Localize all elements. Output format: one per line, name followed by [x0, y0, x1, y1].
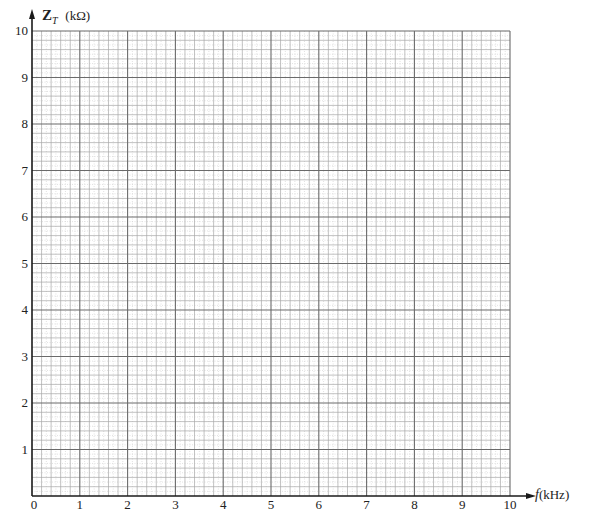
graph-paper-chart	[0, 0, 589, 515]
y-tick-label: 2	[4, 395, 28, 411]
x-tick-label: 5	[259, 497, 283, 513]
x-tick-label: 6	[307, 497, 331, 513]
y-tick-label: 3	[4, 349, 28, 365]
y-axis-arrow-icon	[29, 9, 35, 19]
x-tick-label: 2	[116, 497, 140, 513]
x-tick-label: 7	[355, 497, 379, 513]
y-tick-label: 7	[4, 163, 28, 179]
x-tick-label: 0	[22, 497, 46, 513]
x-tick-label: 9	[450, 497, 474, 513]
x-tick-label: 3	[163, 497, 187, 513]
y-tick-label: 5	[4, 256, 28, 272]
x-axis-label: f(kHz)	[535, 488, 569, 502]
y-tick-label: 9	[4, 70, 28, 86]
y-tick-label: 1	[4, 442, 28, 458]
y-tick-label: 6	[4, 209, 28, 225]
y-axis-label: ZT (kΩ)	[42, 8, 90, 28]
y-tick-label: 10	[4, 23, 28, 39]
x-tick-label: 4	[211, 497, 235, 513]
y-tick-label: 8	[4, 116, 28, 132]
y-tick-label: 4	[4, 302, 28, 318]
x-tick-label: 8	[402, 497, 426, 513]
x-tick-label: 10	[498, 497, 522, 513]
x-tick-label: 1	[68, 497, 92, 513]
